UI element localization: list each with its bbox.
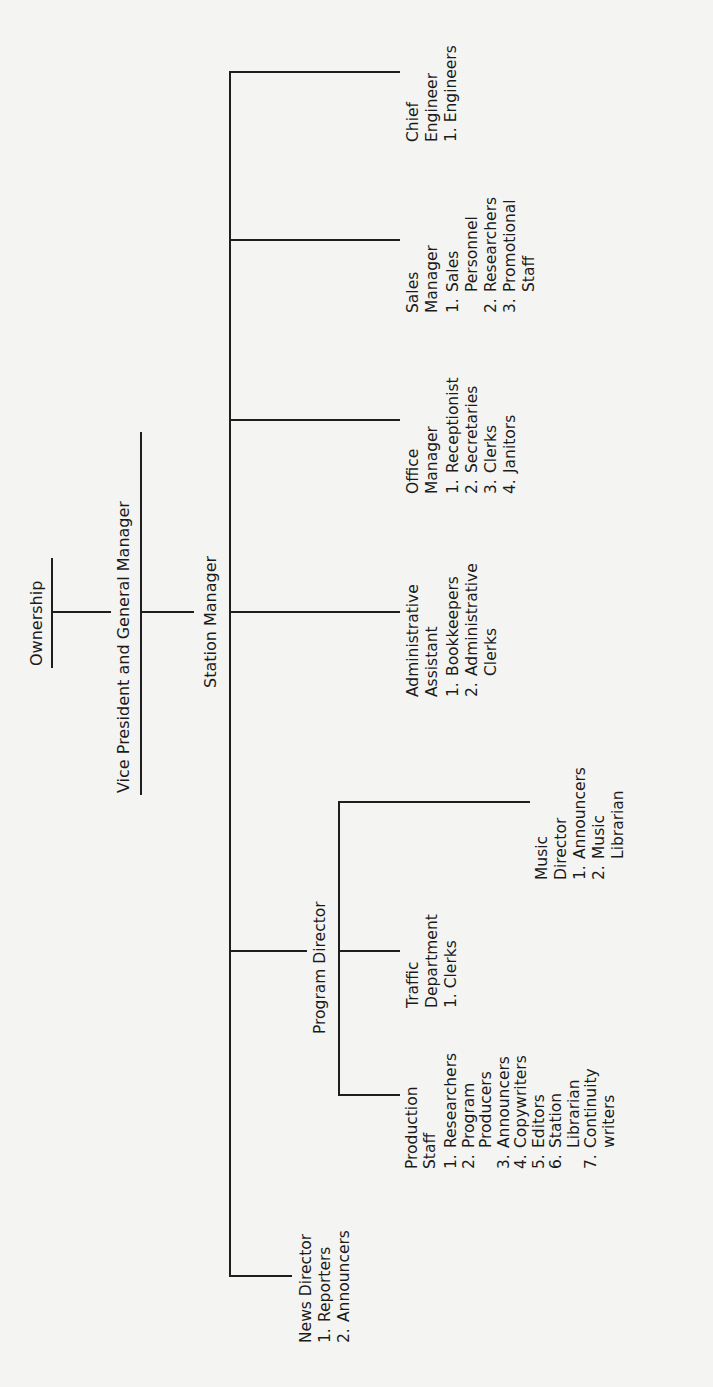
chart-text: Continuity	[582, 1068, 600, 1148]
office-title-2: Manager	[423, 377, 442, 494]
office-staff-2: 2.Secretaries	[463, 377, 482, 494]
ownership-underline	[51, 558, 53, 668]
node-administrative-assistant: Administrative Assistant 1.Bookkeepers 2…	[404, 563, 501, 697]
production-staff-1: 1.Researchers	[443, 1053, 461, 1169]
admin-staff-1: 1.Bookkeepers	[444, 563, 463, 697]
station-manager-trunk	[229, 72, 231, 1277]
sales-staff-2: 2.Researchers	[482, 197, 501, 313]
chart-text: Announcers	[335, 1230, 353, 1322]
news-director-staff-1: 1.Reporters	[316, 1230, 335, 1343]
chart-text: Receptionist	[444, 377, 462, 473]
chart-text: 3.	[496, 1148, 514, 1169]
office-staff-4: 4.Janitors	[501, 377, 520, 494]
chart-text: 3.	[482, 473, 501, 494]
music-staff-1: 1.Announcers	[571, 767, 590, 880]
sales-title-2: Manager	[423, 197, 442, 313]
chart-text: 4.	[501, 473, 520, 494]
node-ownership: Ownership	[27, 581, 46, 666]
office-staff-1: 1.Receptionist	[444, 377, 463, 494]
traffic-staff-1: 1. Clerks	[442, 914, 461, 1008]
production-staff-6: 6.Station	[548, 1053, 566, 1169]
chart-text: Announcers	[495, 1056, 513, 1148]
chart-text: Secretaries	[463, 386, 481, 473]
chart-text: Copywriters	[512, 1055, 530, 1148]
production-title-2: Staff	[422, 1053, 440, 1169]
node-station-manager: Station Manager	[201, 556, 220, 688]
production-staff-2: 2.Program	[461, 1053, 479, 1169]
chart-text: Librarian	[609, 767, 628, 880]
office-title-1: Office	[404, 377, 423, 494]
station-manager-title: Station Manager	[201, 556, 220, 688]
vp-title: Vice President and General Manager	[114, 501, 133, 793]
chart-text: 1.	[444, 292, 463, 313]
chart-text: Administrative	[463, 563, 481, 676]
chief-staff-1: 1. Engineers	[442, 45, 461, 142]
chart-text: writers	[601, 1053, 619, 1169]
chart-text: Editors	[530, 1094, 548, 1148]
node-music-director: Music Director 1.Announcers 2.Music Libr…	[533, 767, 628, 880]
node-production-staff: Production Staff 1.Researchers 2.Program…	[404, 1053, 618, 1169]
chart-text: 4.	[513, 1148, 531, 1169]
node-vice-president: Vice President and General Manager	[114, 501, 133, 793]
chief-title-1: Chief	[404, 45, 423, 142]
sales-staff-1: 1.Sales	[444, 197, 463, 313]
node-office-manager: Office Manager 1.Receptionist 2.Secretar…	[404, 377, 520, 494]
music-title-1: Music	[533, 767, 552, 880]
ownership-title: Ownership	[27, 581, 46, 666]
news-director-staff-2: 2.Announcers	[335, 1230, 354, 1343]
chart-text: Reporters	[316, 1247, 334, 1322]
node-traffic-department: Traffic Department 1. Clerks	[404, 914, 461, 1008]
chart-text: 5.	[531, 1148, 549, 1169]
chart-text: 3.	[501, 292, 520, 313]
office-staff-3: 3.Clerks	[482, 377, 501, 494]
chart-text: Announcers	[571, 767, 589, 859]
node-news-director: News Director 1.Reporters 2.Announcers	[297, 1230, 354, 1343]
chart-text: 1.	[444, 676, 463, 697]
branch-chief-engineer	[229, 71, 400, 73]
chart-text: 1.	[443, 1148, 461, 1169]
sales-title-1: Sales	[404, 197, 423, 313]
music-staff-2: 2.Music	[590, 767, 609, 880]
chart-text: Station	[547, 1093, 565, 1148]
chart-text: Librarian	[566, 1053, 584, 1169]
chart-text: Program	[460, 1083, 478, 1148]
branch-administrative-assistant	[229, 611, 400, 613]
chart-text: 2.	[461, 1148, 479, 1169]
chart-text: Staff	[520, 197, 539, 313]
production-staff-5: 5.Editors	[531, 1053, 549, 1169]
admin-title-1: Administrative	[404, 563, 423, 697]
production-title-1: Production	[404, 1053, 422, 1169]
chart-text: 6.	[548, 1148, 566, 1169]
node-chief-engineer: Chief Engineer 1. Engineers	[404, 45, 461, 142]
traffic-title-1: Traffic	[404, 914, 423, 1008]
admin-staff-2: 2.Administrative	[463, 563, 482, 697]
vp-underline	[140, 432, 142, 795]
chart-text: Researchers	[482, 197, 500, 292]
chart-text: Clerks	[482, 425, 500, 473]
branch-office-manager	[229, 419, 400, 421]
traffic-title-2: Department	[423, 914, 442, 1008]
chart-text: 2.	[463, 473, 482, 494]
chart-text: Clerks	[482, 563, 501, 697]
program-director-title: Program Director	[311, 901, 330, 1034]
branch-news-director	[229, 1275, 292, 1277]
admin-title-2: Assistant	[423, 563, 442, 697]
chart-text: Researchers	[442, 1053, 460, 1148]
chart-text: 2.	[335, 1322, 354, 1343]
connector-ownership-vp	[53, 611, 111, 613]
chart-text: 1.	[444, 473, 463, 494]
chart-text: Sales	[444, 251, 462, 292]
music-title-2: Director	[552, 767, 571, 880]
branch-production-staff	[338, 1094, 400, 1096]
branch-sales-manager	[229, 239, 400, 241]
chart-text: 7.	[583, 1148, 601, 1169]
chart-text: Promotional	[501, 199, 519, 292]
news-director-title: News Director	[297, 1230, 316, 1343]
chart-text: 1.	[571, 859, 590, 880]
chart-text: Music	[590, 815, 608, 859]
chart-text: Producers	[478, 1053, 496, 1169]
chart-text: 2.	[463, 676, 482, 697]
branch-music-director	[338, 801, 530, 803]
chart-text: Personnel	[463, 197, 482, 313]
chart-text: 2.	[482, 292, 501, 313]
